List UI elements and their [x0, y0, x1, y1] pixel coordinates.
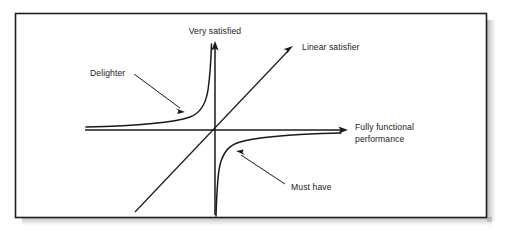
- diagram-canvas: Very satisfied Linear satisfier Delighte…: [0, 0, 507, 241]
- linear-satisfier-label: Linear satisfier: [302, 42, 360, 52]
- delighter-label: Delighter: [90, 68, 125, 78]
- must-have-label: Must have: [291, 182, 332, 192]
- very-satisfied-label: Very satisfied: [189, 26, 242, 36]
- kano-model-figure: Very satisfied Linear satisfier Delighte…: [0, 0, 507, 241]
- figure-plate: [15, 13, 487, 218]
- fully-functional-label-line2: performance: [355, 134, 404, 144]
- fully-functional-label-line1: Fully functional: [355, 122, 414, 132]
